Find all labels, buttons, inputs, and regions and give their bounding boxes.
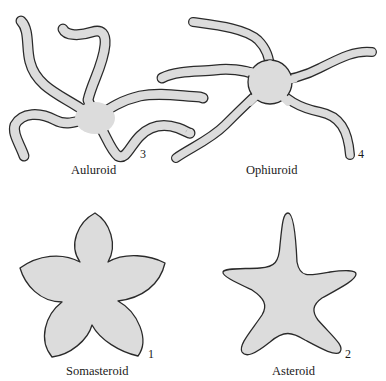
echinoderm-diagram [0,0,386,381]
ophiuroid-number: 4 [358,147,364,162]
ophiuroid-figure [176,22,372,158]
somasteroid-number: 1 [148,347,154,362]
asteroid-figure [223,213,356,355]
somasteroid-label: Somasteroid [66,364,129,379]
asteroid-label: Asteroid [272,364,315,379]
ophiuroid-label: Ophiuroid [246,163,297,178]
auluroid-number: 3 [140,147,146,162]
auluroid-label: Auluroid [71,163,116,178]
somasteroid-figure [20,213,165,357]
asteroid-number: 2 [345,347,351,362]
